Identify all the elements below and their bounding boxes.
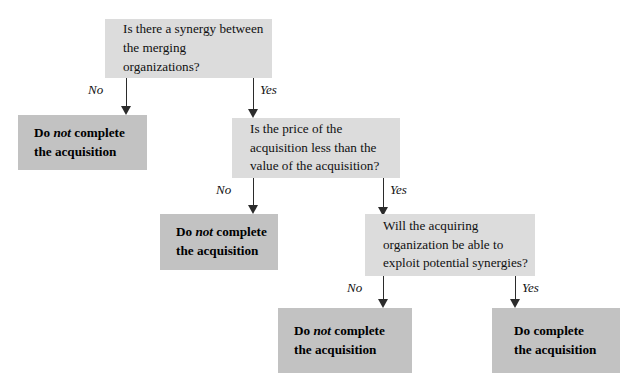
outcome-1-emphasis: not: [53, 125, 71, 140]
outcome-4-line2: the acquisition: [514, 342, 596, 357]
edge-synergy-yes-arrowhead: [248, 109, 258, 118]
outcome-node-do-not-complete-3[interactable]: Do not completethe acquisition: [278, 308, 412, 373]
edge-exploit-no-arrowhead: [378, 299, 388, 308]
outcome-1-line2: the acquisition: [34, 144, 116, 159]
outcome-2-line2: the acquisition: [176, 243, 258, 258]
outcome-node-do-not-complete-2-label: Do not completethe acquisition: [176, 223, 272, 260]
edge-exploit-yes-label: Yes: [522, 280, 539, 296]
edge-synergy-yes-label: Yes: [260, 82, 277, 98]
decision-node-price[interactable]: Is the price of the acquisition less tha…: [232, 118, 400, 178]
outcome-node-do-complete-label: Do completethe acquisition: [514, 322, 614, 359]
edge-exploit-no-label: No: [347, 280, 362, 296]
edge-price-yes-line: [383, 178, 384, 209]
edge-price-no-arrowhead: [248, 205, 258, 214]
edge-price-yes-label: Yes: [390, 182, 407, 198]
outcome-3-prefix: Do: [294, 323, 313, 338]
outcome-node-do-not-complete-1-label: Do not completethe acquisition: [34, 124, 141, 161]
edge-price-no-line: [253, 178, 254, 207]
edge-exploit-no-line: [383, 276, 384, 301]
outcome-1-prefix: Do: [34, 125, 53, 140]
decision-node-price-label: Is the price of the acquisition less tha…: [250, 120, 394, 176]
outcome-2-prefix: Do: [176, 224, 195, 239]
decision-node-exploit-synergies[interactable]: Will the acquiring organization be able …: [365, 214, 535, 276]
outcome-node-do-not-complete-3-label: Do not completethe acquisition: [294, 322, 406, 359]
outcome-node-do-not-complete-1[interactable]: Do not completethe acquisition: [18, 115, 147, 170]
outcome-3-emphasis: not: [313, 323, 331, 338]
outcome-2-suffix: complete: [213, 224, 267, 239]
decision-tree-diagram: Is there a synergy between the merging o…: [0, 0, 642, 392]
edge-synergy-no-line: [126, 78, 127, 108]
decision-node-synergy-label: Is there a synergy between the merging o…: [123, 20, 266, 76]
outcome-1-suffix: complete: [71, 125, 125, 140]
edge-exploit-yes-arrowhead: [510, 299, 520, 308]
outcome-3-suffix: complete: [331, 323, 385, 338]
decision-node-exploit-synergies-label: Will the acquiring organization be able …: [383, 217, 529, 273]
outcome-3-line2: the acquisition: [294, 342, 376, 357]
edge-price-no-label: No: [216, 182, 231, 198]
outcome-2-emphasis: not: [195, 224, 213, 239]
edge-synergy-no-arrowhead: [121, 106, 131, 115]
decision-node-synergy[interactable]: Is there a synergy between the merging o…: [105, 19, 272, 78]
outcome-4-prefix: Do: [514, 323, 533, 338]
edge-synergy-no-label: No: [88, 82, 103, 98]
outcome-4-suffix: complete: [533, 323, 584, 338]
outcome-node-do-not-complete-2[interactable]: Do not completethe acquisition: [160, 214, 278, 270]
edge-synergy-yes-line: [253, 78, 254, 111]
outcome-node-do-complete[interactable]: Do completethe acquisition: [492, 308, 620, 373]
edge-exploit-yes-line: [515, 276, 516, 301]
